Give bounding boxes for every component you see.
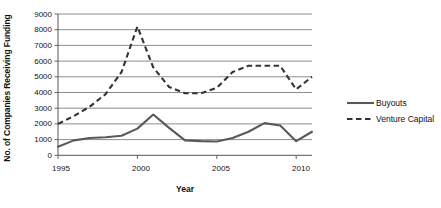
legend-label-venture-capital: Venture Capital — [376, 114, 434, 124]
x-axis-ticks — [58, 155, 296, 159]
gridlines — [58, 14, 312, 140]
legend-label-buyouts: Buyouts — [376, 98, 407, 108]
legend — [347, 103, 374, 119]
series-line-venture-capital — [58, 27, 312, 124]
y-axis-ticks — [55, 14, 59, 155]
plot-area — [0, 0, 441, 208]
chart-container: No. of Companies Receiving Funding Year … — [0, 0, 441, 208]
axis-lines — [58, 14, 312, 155]
series-line-buyouts — [58, 114, 312, 146]
